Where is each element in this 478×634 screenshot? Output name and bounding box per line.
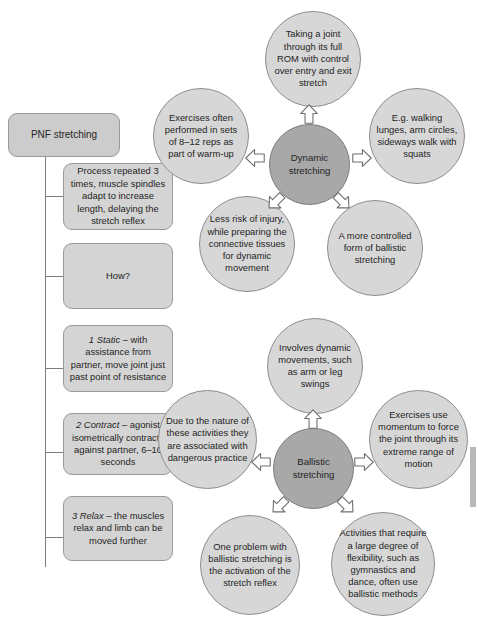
tree-box-relax[interactable]: 3 Relax – the muscles relax and limb can… xyxy=(63,496,173,561)
node-ballistic-stretch-reflex-label: One problem with ballistic stretching is… xyxy=(207,541,293,590)
arrow-up-dynamic-rom xyxy=(298,103,320,125)
tree-box-contract[interactable]: 2 Contract – agonist isometrically contr… xyxy=(63,413,173,475)
node-ballistic-flexibility-label: Activities that require a large degree o… xyxy=(338,527,428,600)
tree-branch-line-1 xyxy=(45,196,64,197)
tree-box-static[interactable]: 1 Static – with assistance from partner,… xyxy=(63,325,173,392)
node-ballistic-flexibility[interactable]: Activities that require a large degree o… xyxy=(331,512,435,616)
node-ballistic-dangerous[interactable]: Due to the nature of these activities th… xyxy=(158,390,257,489)
arrow-left-dynamic-sets-reps xyxy=(244,147,266,169)
tree-box-process-repeated[interactable]: Process repeated 3 times, muscle spindle… xyxy=(63,163,173,230)
tree-box-pnf-stretching[interactable]: PNF stretching xyxy=(8,113,120,157)
tree-box-contract-label: 2 Contract – agonist isometrically contr… xyxy=(69,419,167,469)
node-dynamic-sets-reps-label: Exercises often performed in sets of 8–1… xyxy=(160,112,242,161)
tree-box-process-repeated-label: Process repeated 3 times, muscle spindle… xyxy=(69,165,167,227)
tree-box-contract-number: 2 Contract xyxy=(76,419,119,430)
tree-box-static-label: 1 Static – with assistance from partner,… xyxy=(69,334,167,384)
node-dynamic-rom-label: Taking a joint through its full ROM with… xyxy=(272,28,354,89)
node-dynamic-examples[interactable]: E.g. walking lunges, arm circles, sidewa… xyxy=(369,88,465,184)
arrow-left-ballistic-dangerous xyxy=(250,451,272,473)
tree-branch-line-3 xyxy=(45,368,64,369)
arrow-right-dynamic-examples xyxy=(351,147,373,169)
tree-branch-line-4 xyxy=(45,452,64,453)
node-dynamic-controlled-ballistic-label: A more controlled form of ballistic stre… xyxy=(334,230,416,267)
node-ballistic-dangerous-label: Due to the nature of these activities th… xyxy=(165,415,250,464)
node-dynamic-stretching-hub-label: Dynamic stretching xyxy=(276,152,343,177)
node-dynamic-sets-reps[interactable]: Exercises often performed in sets of 8–1… xyxy=(153,88,249,184)
arrow-downright-ballistic-flexibility xyxy=(334,493,356,515)
page-edge-bar xyxy=(470,447,476,507)
node-ballistic-stretch-reflex[interactable]: One problem with ballistic stretching is… xyxy=(200,515,300,615)
diagram-canvas: PNF stretching Process repeated 3 times,… xyxy=(0,0,478,634)
node-ballistic-stretching-hub-label: Ballistic stretching xyxy=(280,456,347,481)
tree-box-how-label: How? xyxy=(106,270,130,282)
tree-box-pnf-stretching-label: PNF stretching xyxy=(31,128,97,141)
node-dynamic-less-risk-label: Less risk of injury, while preparing the… xyxy=(206,213,288,274)
tree-trunk-line xyxy=(45,157,46,567)
arrow-downleft-dynamic-less-risk xyxy=(266,189,288,211)
node-dynamic-rom[interactable]: Taking a joint through its full ROM with… xyxy=(265,11,361,107)
tree-box-relax-number: 3 Relax xyxy=(72,510,104,521)
arrow-right-ballistic-momentum xyxy=(353,451,375,473)
arrow-up-ballistic-swings xyxy=(302,408,324,430)
node-ballistic-momentum-label: Exercises use momentum to force the join… xyxy=(376,409,461,470)
node-ballistic-swings[interactable]: Involves dynamic movements, such as arm … xyxy=(267,318,363,414)
node-dynamic-examples-label: E.g. walking lunges, arm circles, sidewa… xyxy=(376,112,458,161)
tree-box-relax-label: 3 Relax – the muscles relax and limb can… xyxy=(69,510,167,547)
tree-box-how[interactable]: How? xyxy=(63,243,173,309)
arrow-downleft-ballistic-stretch-reflex xyxy=(270,493,292,515)
tree-branch-line-2 xyxy=(45,276,64,277)
tree-branch-line-5 xyxy=(45,537,64,538)
node-dynamic-controlled-ballistic[interactable]: A more controlled form of ballistic stre… xyxy=(327,200,423,296)
arrow-downright-dynamic-controlled-ballistic xyxy=(330,189,352,211)
tree-box-static-number: 1 Static xyxy=(89,334,120,345)
node-ballistic-momentum[interactable]: Exercises use momentum to force the join… xyxy=(369,390,468,489)
node-ballistic-swings-label: Involves dynamic movements, such as arm … xyxy=(274,342,356,391)
